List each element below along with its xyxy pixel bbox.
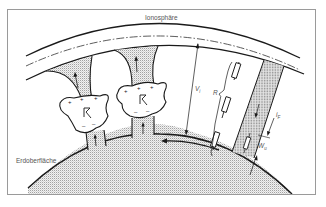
svg-text:+: + xyxy=(80,96,84,102)
current-label: iF xyxy=(276,111,280,120)
resistor-1 xyxy=(231,63,240,79)
potential-label: Vi xyxy=(195,85,200,94)
current-column-2 xyxy=(114,46,158,86)
thundercloud-2: + + + – – xyxy=(117,82,167,117)
svg-text:+: + xyxy=(150,84,154,90)
thundercloud-1: + + + – – xyxy=(60,95,109,133)
svg-text:+: + xyxy=(124,88,128,94)
svg-text:+: + xyxy=(94,95,98,101)
ionosphere-outer-arc xyxy=(26,23,300,58)
arrow-down-icon xyxy=(267,131,270,136)
ionosphere-label: Ionosphäre xyxy=(145,14,178,21)
svg-text:+: + xyxy=(137,85,141,91)
global-circuit-diagram: + + + – – + + + – – xyxy=(0,0,326,207)
resistor-2 xyxy=(221,97,230,113)
svg-text:+: + xyxy=(68,99,72,105)
layer-width-label: Wu xyxy=(258,142,267,151)
resistance-label: R xyxy=(213,89,218,96)
earth-surface-label: Erdoberfläche xyxy=(16,157,56,164)
